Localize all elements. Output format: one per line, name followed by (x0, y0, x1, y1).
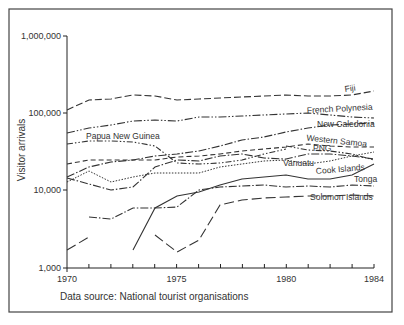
label-png: PNG (313, 143, 331, 153)
chart-canvas: 1,000,000 100,000 10,000 1,000 Visitor a… (0, 0, 404, 325)
label-vanuatu: Vanuatu (283, 158, 314, 168)
label-new-caledonia: New Caledonia (317, 119, 375, 129)
label-papua-new-guinea: Papua New Guinea (86, 131, 160, 141)
y-axis-label: Visitor arrivals (16, 119, 27, 182)
y-ticks (63, 36, 67, 268)
x-tick-label: 1970 (57, 274, 77, 284)
series-solomon-islands-b (155, 195, 374, 252)
series-solomon-islands-a (67, 237, 89, 250)
label-tonga: Tonga (354, 174, 377, 184)
y-tick-label: 100,000 (28, 108, 61, 118)
data-source-note: Data source: National tourist organisati… (60, 291, 248, 302)
label-solomon-islands: Solomon Islands (310, 192, 373, 202)
x-tick-label: 1980 (276, 274, 296, 284)
x-tick-label: 1984 (364, 274, 384, 284)
y-tick-label: 10,000 (33, 185, 61, 195)
chart-border (9, 9, 392, 312)
label-french-polynesia: French Polynesia (307, 102, 373, 115)
label-fiji: Fiji (344, 83, 356, 94)
x-tick-label: 1975 (167, 274, 187, 284)
y-tick-label: 1,000,000 (21, 31, 61, 41)
y-tick-label: 1,000 (38, 263, 61, 273)
